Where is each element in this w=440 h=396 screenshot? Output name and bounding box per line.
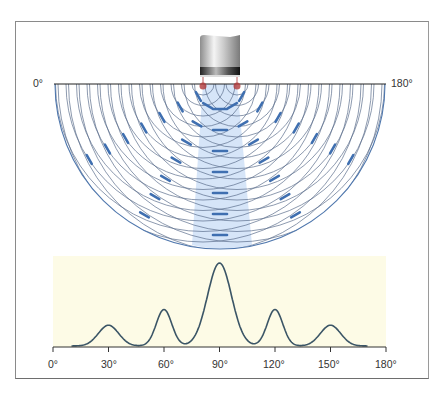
x-tick-label: 150° [318, 358, 340, 370]
x-tick-label: 30° [101, 358, 117, 370]
chart-background [53, 256, 386, 347]
x-tick-label: 180° [375, 358, 397, 370]
x-axis-ticks [53, 347, 386, 352]
source-dot-left [200, 83, 207, 90]
transducer-icon [200, 35, 240, 84]
angle-label-right: 180° [391, 77, 413, 89]
x-tick-label: 120° [263, 358, 285, 370]
source-dot-right [234, 83, 241, 90]
angle-label-left: 0° [33, 77, 43, 89]
x-tick-label: 0° [48, 358, 58, 370]
interference-diagram [0, 0, 440, 396]
x-tick-label: 60° [158, 358, 174, 370]
x-tick-label: 90° [212, 358, 228, 370]
